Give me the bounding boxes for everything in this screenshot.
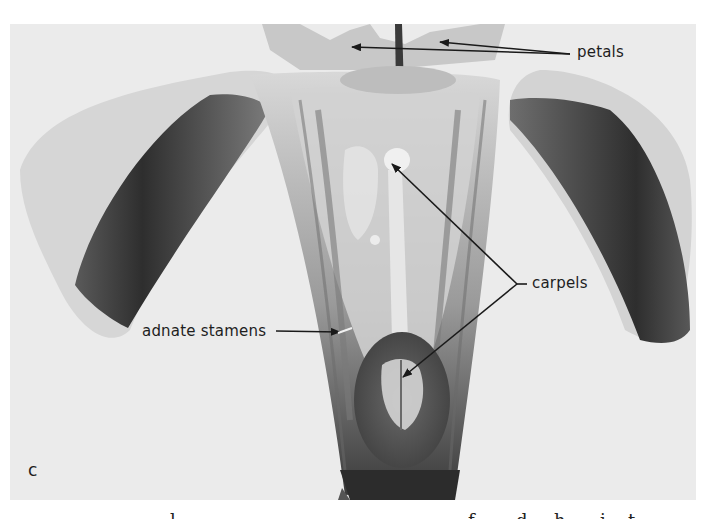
label-petals: petals — [577, 45, 624, 60]
caption-partial: l f d h i t — [0, 512, 709, 519]
figure-panel-c: petals carpels adnate stamens c l f d h … — [0, 0, 709, 519]
label-adnate-stamens: adnate stamens — [142, 324, 266, 339]
panel-letter: c — [28, 462, 37, 479]
label-carpels: carpels — [532, 276, 588, 291]
flower-section-photo — [0, 0, 709, 519]
